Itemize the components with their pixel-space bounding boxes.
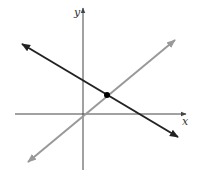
y-axis-label: y [73, 6, 81, 19]
intersection-point [104, 92, 110, 98]
x-axis-label: x [182, 115, 189, 128]
increasing-line [28, 40, 175, 162]
coordinate-graph: y x [0, 0, 200, 181]
